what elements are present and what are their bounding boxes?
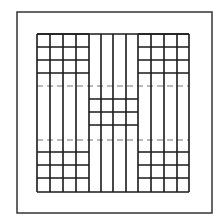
grid-diagram bbox=[0, 0, 222, 223]
vertical-lines bbox=[37, 34, 189, 192]
